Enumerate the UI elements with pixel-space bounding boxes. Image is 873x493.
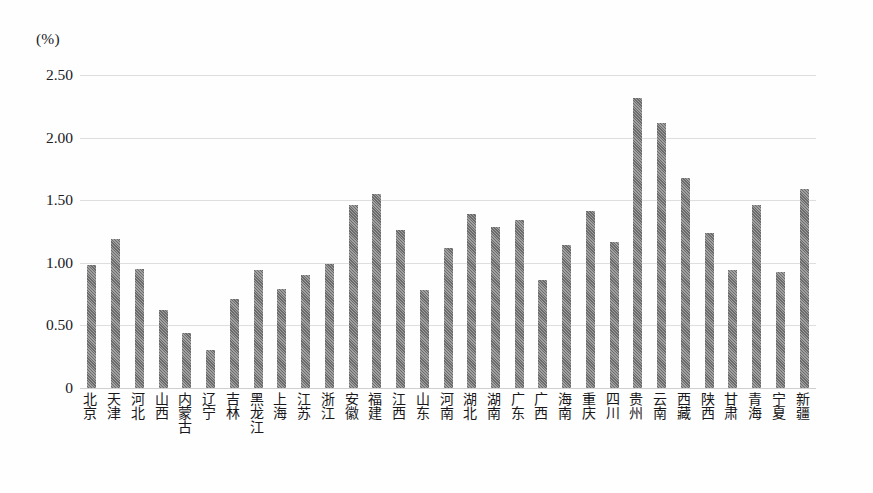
x-axis-tick-label: 天津: [105, 392, 120, 420]
x-axis-tick-label: 云南: [651, 392, 666, 420]
bar: [349, 205, 358, 388]
x-axis-tick-label: 上海: [271, 392, 286, 420]
x-axis-tick-label: 湖北: [461, 392, 476, 420]
bar: [159, 310, 168, 388]
y-axis-tick-label: 2.50: [46, 67, 73, 83]
x-axis-tick-label: 贵州: [627, 392, 642, 420]
x-axis-tick-label: 河北: [129, 392, 144, 420]
bar: [111, 239, 120, 388]
bar: [420, 290, 429, 388]
bar: [728, 270, 737, 388]
x-axis-tick-label: 江西: [390, 392, 405, 420]
x-axis-tick-label: 新疆: [794, 392, 809, 420]
x-axis-tick-label: 西藏: [675, 392, 690, 420]
bar: [657, 123, 666, 388]
bar: [372, 194, 381, 388]
bar: [135, 269, 144, 388]
bar: [206, 350, 215, 388]
bar: [681, 178, 690, 388]
y-axis-tick-label: 1.00: [46, 255, 73, 271]
x-axis-tick-label: 山西: [153, 392, 168, 420]
x-axis-tick-label: 陕西: [699, 392, 714, 420]
bar: [87, 265, 96, 388]
bar: [467, 214, 476, 388]
bar: [800, 189, 809, 388]
bar: [705, 233, 714, 388]
x-axis-tick-label: 重庆: [580, 392, 595, 420]
x-axis-tick-label: 山东: [414, 392, 429, 420]
bar: [230, 299, 239, 388]
x-axis-tick-label: 辽宁: [200, 392, 215, 420]
x-axis-tick-label: 湖南: [485, 392, 500, 420]
bar: [182, 333, 191, 388]
x-axis-tick-label: 浙江: [319, 392, 334, 420]
x-axis-tick-label: 北京: [81, 392, 96, 420]
bar: [325, 264, 334, 388]
gridline: [80, 388, 816, 389]
bar: [301, 275, 310, 388]
bar-series: [80, 75, 816, 388]
bar: [586, 211, 595, 388]
x-axis-labels: 北京天津河北山西内蒙古辽宁吉林黑龙江上海江苏浙江安徽福建江西山东河南湖北湖南广东…: [80, 392, 816, 490]
x-axis-tick-label: 江苏: [295, 392, 310, 420]
x-axis-tick-label: 甘肃: [722, 392, 737, 420]
bar: [491, 227, 500, 389]
x-axis-tick-label: 青海: [746, 392, 761, 420]
bar: [752, 205, 761, 388]
bar: [277, 289, 286, 388]
bar: [444, 248, 453, 388]
x-axis-tick-label: 广西: [532, 392, 547, 420]
x-axis-tick-label: 广东: [509, 392, 524, 420]
x-axis-tick-label: 宁夏: [770, 392, 785, 420]
y-axis-tick-label: 2.00: [46, 130, 73, 146]
bar: [776, 272, 785, 388]
x-axis-tick-label: 海南: [556, 392, 571, 420]
x-axis-tick-label: 四川: [604, 392, 619, 420]
x-axis-tick-label: 安徽: [343, 392, 358, 420]
x-axis-tick-label: 黑龙江: [248, 392, 263, 434]
bar: [633, 98, 642, 388]
bar: [562, 245, 571, 388]
plot-area: 2.502.001.501.000.500: [80, 75, 816, 388]
x-axis-tick-label: 吉林: [224, 392, 239, 420]
x-axis-tick-label: 河南: [438, 392, 453, 420]
x-axis-tick-label: 内蒙古: [176, 392, 191, 434]
bar: [396, 230, 405, 388]
y-axis-tick-label: 1.50: [46, 192, 73, 208]
y-axis-tick-label: 0.50: [46, 318, 73, 334]
bar: [515, 220, 524, 388]
x-axis-tick-label: 福建: [366, 392, 381, 420]
chart-page: (%) 2.502.001.501.000.500 北京天津河北山西内蒙古辽宁吉…: [0, 0, 873, 493]
bar: [538, 280, 547, 388]
bar: [254, 270, 263, 388]
bar: [610, 242, 619, 388]
y-axis-tick-label: 0: [65, 380, 73, 396]
y-axis-unit-label: (%): [36, 31, 60, 47]
